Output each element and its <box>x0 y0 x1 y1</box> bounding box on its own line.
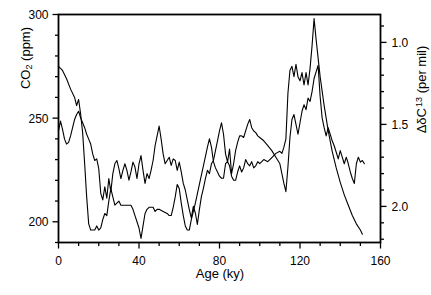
y-axis-left-title-sub: 2 <box>24 65 34 70</box>
x-axis-title: Age (ky) <box>160 266 280 281</box>
svg-text:160: 160 <box>370 254 390 268</box>
svg-text:0: 0 <box>55 254 62 268</box>
svg-text:2.0: 2.0 <box>392 200 409 214</box>
y-axis-right-title: ΔδC13 (per mil) <box>414 10 429 170</box>
svg-text:1.0: 1.0 <box>392 36 409 50</box>
y-axis-left-title: CO2 (ppm) <box>18 0 34 118</box>
y-axis-right-title-sup: 13 <box>414 97 424 108</box>
y-axis-left-title-tail: (ppm) <box>18 27 33 65</box>
svg-text:200: 200 <box>28 215 48 229</box>
co2-d13c-chart: 040801201602002503001.01.52.0 CO2 (ppm) … <box>0 0 431 295</box>
plot-area: 040801201602002503001.01.52.0 <box>0 0 431 295</box>
svg-text:120: 120 <box>290 254 310 268</box>
y-axis-left-title-main: CO <box>18 70 33 90</box>
y-axis-right-title-main: ΔδC <box>414 108 429 133</box>
svg-text:1.5: 1.5 <box>392 118 409 132</box>
svg-text:40: 40 <box>132 254 146 268</box>
y-axis-right-title-tail: (per mil) <box>414 46 429 97</box>
